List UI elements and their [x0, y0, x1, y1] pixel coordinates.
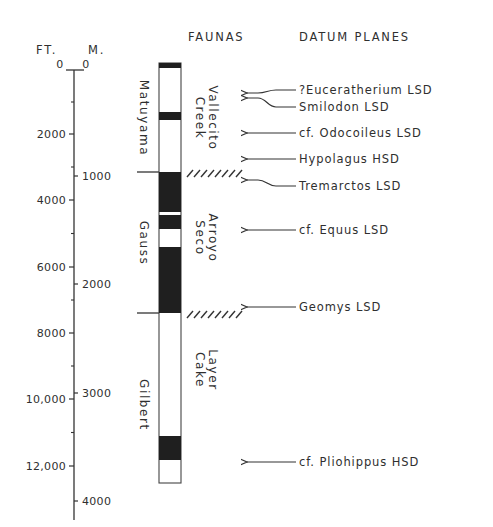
- m-tick-label: 3000: [82, 387, 111, 400]
- header-group: FT. M. FAUNAS DATUM PLANES: [36, 30, 410, 57]
- hatch-mark: [194, 311, 200, 318]
- datum-planes: ?Euceratherium LSDSmilodon LSDcf. Odocoi…: [247, 83, 433, 469]
- m-tick-label: 0: [82, 58, 89, 71]
- hatch-mark: [215, 170, 221, 177]
- hatch-mark: [236, 311, 242, 318]
- ft-tick-label: 4000: [37, 194, 66, 207]
- hatch-mark: [222, 170, 228, 177]
- hatch-mark: [194, 170, 200, 177]
- stratigraphic-diagram: FT. M. FAUNAS DATUM PLANES 0200040006000…: [0, 0, 493, 527]
- magnetic-epoch-labels: MatuyamaGaussGilbert: [137, 80, 151, 431]
- fauna-label-line1: Arroyo: [206, 214, 220, 263]
- ft-ticks: 0200040006000800010,00012,000: [26, 58, 74, 473]
- hatch-mark: [187, 311, 193, 318]
- polarity-column: [159, 63, 181, 483]
- datum-planes-header: DATUM PLANES: [299, 30, 410, 44]
- datum-label: Hypolagus HSD: [299, 152, 400, 166]
- depth-axis: 0200040006000800010,00012,000 0100020003…: [26, 58, 112, 520]
- datum-label: cf. Pliohippus HSD: [299, 455, 419, 469]
- hatch-mark: [201, 170, 207, 177]
- hatch-mark: [215, 311, 221, 318]
- normal-polarity-segment: [159, 247, 181, 313]
- hatch-mark: [208, 311, 214, 318]
- epoch-label: Gauss: [137, 221, 151, 266]
- fauna-label-line2: Cake: [193, 352, 207, 388]
- ft-tick-label: 12,000: [26, 460, 66, 473]
- datum-label: Geomys LSD: [299, 300, 381, 314]
- hatch-mark: [222, 311, 228, 318]
- epoch-label: Gilbert: [137, 379, 151, 431]
- hatch-mark: [208, 170, 214, 177]
- fauna-label-line1: Layer: [206, 349, 220, 390]
- m-tick-label: 2000: [82, 278, 111, 291]
- epoch-label: Matuyama: [137, 80, 151, 156]
- ft-tick-label: 8000: [37, 327, 66, 340]
- m-ticks: 01000200030004000: [74, 58, 111, 508]
- fauna-label-line2: Seco: [193, 220, 207, 255]
- datum-arrow: [247, 90, 296, 93]
- normal-polarity-segment: [159, 436, 181, 460]
- normal-polarity-segment: [159, 215, 181, 229]
- fauna-labels: VallecitoCreekArroyoSecoLayerCake: [193, 85, 220, 390]
- hatch-mark: [229, 311, 235, 318]
- ft-tick-label: 0: [56, 58, 63, 71]
- hatch-mark: [236, 170, 242, 177]
- m-header: M.: [88, 43, 105, 57]
- hatch-mark: [187, 170, 193, 177]
- fauna-label-line1: Vallecito: [206, 85, 220, 150]
- datum-label: cf. Odocoileus LSD: [299, 126, 422, 140]
- m-tick-label: 4000: [82, 495, 111, 508]
- hatch-mark: [201, 311, 207, 318]
- datum-label: cf. Equus LSD: [299, 223, 389, 237]
- hatch-mark: [229, 170, 235, 177]
- ft-tick-label: 2000: [37, 128, 66, 141]
- datum-arrow: [247, 98, 296, 107]
- normal-polarity-segment: [159, 112, 181, 120]
- ft-tick-label: 6000: [37, 261, 66, 274]
- m-tick-label: 1000: [82, 170, 111, 183]
- datum-label: Tremarctos LSD: [298, 179, 401, 193]
- normal-polarity-segment: [159, 172, 181, 212]
- normal-polarity-segment: [159, 63, 181, 68]
- ft-header: FT.: [36, 43, 57, 57]
- datum-label: ?Euceratherium LSD: [299, 83, 433, 97]
- datum-label: Smilodon LSD: [299, 100, 390, 114]
- ft-tick-label: 10,000: [26, 393, 66, 406]
- fauna-label-line2: Creek: [193, 97, 207, 140]
- faunas-header: FAUNAS: [188, 30, 244, 44]
- datum-arrow: [247, 180, 296, 186]
